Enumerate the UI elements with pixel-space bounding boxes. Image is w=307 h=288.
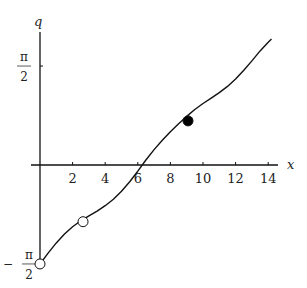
chart: 2468101214 π2−π2 x q [0, 0, 307, 288]
y-tick-label-sign: − [3, 257, 13, 271]
axes [31, 32, 278, 264]
series-line [40, 39, 272, 264]
x-tick-label: 8 [166, 171, 174, 186]
y-tick-label-denominator: 2 [25, 268, 33, 282]
y-ticks: π2−π2 [3, 50, 43, 282]
y-axis-label: q [34, 14, 42, 29]
y-tick-label-numerator: π [20, 50, 28, 64]
x-tick-label: 2 [68, 171, 76, 186]
x-tick-label: 12 [227, 171, 244, 186]
highlight-point-marker [183, 116, 193, 126]
x-tick-label: 14 [260, 171, 277, 186]
x-tick-label: 10 [195, 171, 212, 186]
markers-layer [35, 116, 193, 269]
intermediate-point-marker [78, 217, 88, 227]
y-tick-label-numerator: π [25, 248, 33, 262]
x-axis-label: x [287, 157, 295, 172]
y-tick-label-denominator: 2 [20, 70, 28, 84]
x-tick-label: 6 [134, 171, 142, 186]
start-point-marker [35, 259, 45, 269]
x-tick-label: 4 [101, 171, 109, 186]
series-layer [40, 39, 272, 264]
